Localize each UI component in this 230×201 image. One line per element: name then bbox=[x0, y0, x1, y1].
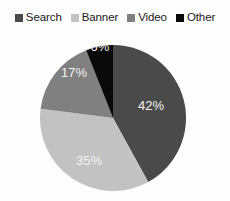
legend-label-search: Search bbox=[26, 12, 62, 24]
square-swatch-icon bbox=[176, 14, 184, 22]
pie-label-search: 42% bbox=[138, 98, 164, 113]
chart-legend: Search Banner Video Other bbox=[0, 0, 230, 30]
legend-item-video[interactable]: Video bbox=[127, 12, 167, 24]
pie-label-banner: 35% bbox=[76, 153, 102, 168]
pie-label-video: 17% bbox=[61, 65, 87, 80]
legend-item-other[interactable]: Other bbox=[176, 12, 215, 24]
legend-item-search[interactable]: Search bbox=[15, 12, 62, 24]
pie-chart-svg: 42% 35% 17% 6% bbox=[0, 30, 230, 201]
legend-label-video: Video bbox=[138, 12, 167, 24]
square-swatch-icon bbox=[71, 14, 79, 22]
pie-label-other: 6% bbox=[91, 39, 110, 54]
legend-label-banner: Banner bbox=[82, 12, 118, 24]
pie-chart-area: 42% 35% 17% 6% bbox=[0, 30, 230, 201]
pie-chart-screenshot: Search Banner Video Other 42% 35% bbox=[0, 0, 230, 201]
legend-item-banner[interactable]: Banner bbox=[71, 12, 118, 24]
legend-label-other: Other bbox=[187, 12, 215, 24]
square-swatch-icon bbox=[127, 14, 135, 22]
square-swatch-icon bbox=[15, 14, 23, 22]
